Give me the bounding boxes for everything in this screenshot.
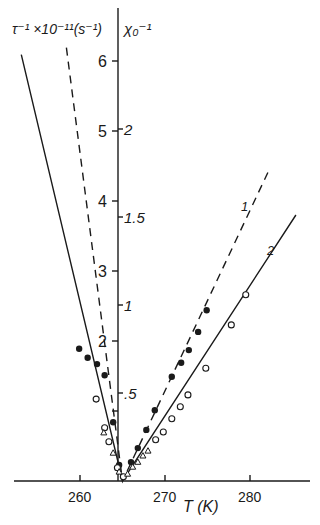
open-circle-point <box>106 439 112 445</box>
y-axis-label-right: χ₀⁻¹ <box>122 20 151 37</box>
y-tick-label-left: 4 <box>98 193 107 210</box>
filled-circle-point <box>94 361 100 367</box>
y-tick-label-left: 3 <box>98 263 107 280</box>
open-circle-point <box>160 429 166 435</box>
axis-labels: τ⁻¹ ×10⁻¹¹(s⁻¹) χ₀⁻¹ T (K) 1 2 260270280… <box>12 20 275 515</box>
open-circle-point <box>102 425 108 431</box>
filled-circle-point <box>195 329 201 335</box>
filled-circle-point <box>84 355 90 361</box>
line-2-solid <box>21 55 296 481</box>
y-tick-label-left: 5 <box>98 123 107 140</box>
open-circle-point <box>153 437 159 443</box>
open-triangle-point <box>145 448 151 453</box>
x-tick-label: 260 <box>68 489 92 505</box>
filled-circle-point <box>169 374 175 380</box>
open-circle-point <box>177 404 183 410</box>
filled-circle-point <box>186 347 192 353</box>
x-tick-label: 270 <box>153 489 177 505</box>
filled-circle-point <box>178 360 184 366</box>
y-tick-label-right: 1.5 <box>124 209 146 226</box>
data-points <box>76 292 249 480</box>
filled-circle-point <box>143 427 149 433</box>
open-circle-point <box>243 292 249 298</box>
filled-circle-point <box>101 372 107 378</box>
open-circle-point <box>228 322 234 328</box>
filled-circle-point <box>152 407 158 413</box>
open-circle-point <box>203 365 209 371</box>
open-circle-point <box>185 392 191 398</box>
x-axis-label: T (K) <box>183 498 219 515</box>
y-tick-label-right: 1 <box>124 297 132 314</box>
chart: τ⁻¹ ×10⁻¹¹(s⁻¹) χ₀⁻¹ T (K) 1 2 260270280… <box>0 0 320 525</box>
filled-circle-point <box>203 307 209 313</box>
axes <box>14 8 310 481</box>
filled-circle-point <box>110 419 116 425</box>
x-tick-label: 280 <box>238 489 262 505</box>
y-tick-label-left: 2 <box>98 333 107 350</box>
y-tick-label-left: 6 <box>98 53 107 70</box>
open-triangle-point <box>125 471 131 476</box>
y-tick-label-right: 2 <box>123 121 133 138</box>
line-1-dashed <box>66 48 269 481</box>
y-tick-label-right: .5 <box>124 385 137 402</box>
filled-circle-point <box>76 346 82 352</box>
y-axis-label-left: τ⁻¹ ×10⁻¹¹(s⁻¹) <box>12 21 102 37</box>
open-circle-point <box>169 416 175 422</box>
fit-lines <box>21 48 296 481</box>
filled-circle-point <box>135 445 141 451</box>
line-2-label: 2 <box>266 243 275 258</box>
open-circle-point <box>93 396 99 402</box>
line-1-label: 1 <box>241 199 248 214</box>
